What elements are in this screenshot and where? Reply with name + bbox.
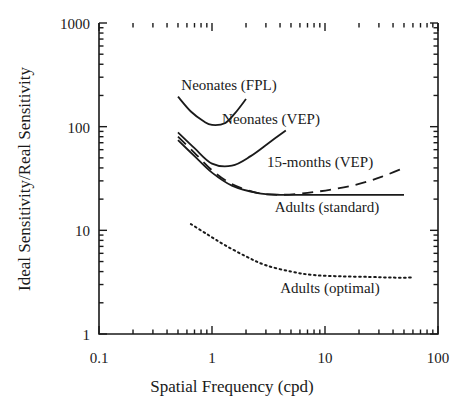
y-tick-label-100: 100 bbox=[68, 120, 91, 136]
curve-label-15-months-vep: 15-months (VEP) bbox=[267, 154, 373, 171]
x-tick-label-1: 1 bbox=[208, 350, 216, 366]
y-axis-title: Ideal Sensitivity/Real Sensitivity bbox=[15, 67, 34, 291]
curve-label-adults-optimal: Adults (optimal) bbox=[280, 280, 380, 297]
y-tick-label-1: 1 bbox=[83, 327, 91, 343]
x-tick-label-10: 10 bbox=[318, 350, 333, 366]
chart-canvas: 1000 100 10 1 0.1 1 10 100 Spatial Frequ… bbox=[0, 0, 463, 409]
figure-container: 1000 100 10 1 0.1 1 10 100 Spatial Frequ… bbox=[0, 0, 463, 409]
x-tick-label-100: 100 bbox=[427, 350, 450, 366]
curve-label-neonates-vep: Neonates (VEP) bbox=[222, 111, 320, 128]
curve-label-adults-standard: Adults (standard) bbox=[275, 199, 380, 216]
y-tick-label-1000: 1000 bbox=[60, 16, 90, 32]
x-axis-title: Spatial Frequency (cpd) bbox=[150, 377, 313, 396]
curve-label-neonates-fpl: Neonates (FPL) bbox=[181, 77, 276, 94]
x-tick-label-0.1: 0.1 bbox=[90, 350, 109, 366]
plot-background bbox=[0, 0, 463, 409]
y-tick-label-10: 10 bbox=[75, 223, 90, 239]
